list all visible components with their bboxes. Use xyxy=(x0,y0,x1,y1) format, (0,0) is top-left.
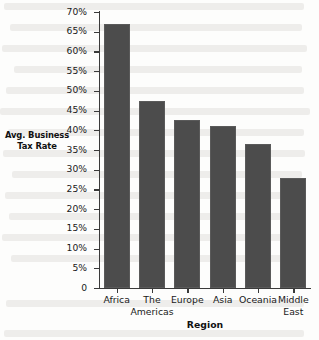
bar-chart-figure: Avg. Business Tax Rate 05%10%15%20%25%30… xyxy=(0,0,319,340)
y-tick-label: 10% xyxy=(67,242,87,253)
y-tick: 70% xyxy=(94,12,99,13)
y-tick: 0 xyxy=(94,288,99,289)
x-tick xyxy=(223,288,224,293)
x-tick xyxy=(293,288,294,293)
x-tick xyxy=(187,288,188,293)
y-tick: 25% xyxy=(94,189,99,190)
x-tick xyxy=(258,288,259,293)
y-tick-label: 30% xyxy=(67,163,87,174)
y-tick-label: 5% xyxy=(72,262,87,273)
y-tick-label: 60% xyxy=(67,45,87,56)
x-category-label: Middle East xyxy=(269,294,318,318)
y-tick-label: 70% xyxy=(67,6,87,17)
bar xyxy=(104,24,130,288)
y-tick-label: 20% xyxy=(67,203,87,214)
y-tick-label: 35% xyxy=(67,144,87,155)
y-tick: 65% xyxy=(94,32,99,33)
bar xyxy=(174,120,200,288)
y-tick-label: 0 xyxy=(81,282,87,293)
y-tick: 50% xyxy=(94,91,99,92)
y-tick: 40% xyxy=(94,130,99,131)
plot-area: 05%10%15%20%25%30%35%40%45%50%55%60%65%7… xyxy=(99,12,311,288)
y-axis-title: Avg. Business Tax Rate xyxy=(0,130,74,152)
y-tick: 15% xyxy=(94,229,99,230)
y-tick: 30% xyxy=(94,170,99,171)
bar xyxy=(139,101,165,288)
y-axis-line xyxy=(99,11,100,289)
y-tick: 10% xyxy=(94,249,99,250)
bar xyxy=(245,144,271,288)
y-tick: 60% xyxy=(94,51,99,52)
y-tick: 35% xyxy=(94,150,99,151)
y-tick-label: 15% xyxy=(67,222,87,233)
bar xyxy=(280,178,306,288)
y-tick-label: 40% xyxy=(67,124,87,135)
y-tick: 55% xyxy=(94,71,99,72)
y-tick-label: 55% xyxy=(67,65,87,76)
y-tick-label: 25% xyxy=(67,183,87,194)
x-axis-title: Region xyxy=(99,319,311,330)
x-tick xyxy=(117,288,118,293)
y-tick-label: 65% xyxy=(67,25,87,36)
y-tick: 20% xyxy=(94,209,99,210)
y-tick: 5% xyxy=(94,268,99,269)
x-axis-line xyxy=(99,288,311,289)
y-tick-label: 50% xyxy=(67,84,87,95)
bar xyxy=(210,126,236,288)
y-tick: 45% xyxy=(94,111,99,112)
y-tick-label: 45% xyxy=(67,104,87,115)
x-tick xyxy=(152,288,153,293)
